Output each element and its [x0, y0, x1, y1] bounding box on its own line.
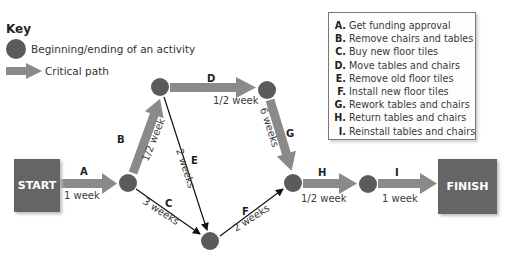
- arrow-b: [124, 95, 170, 176]
- node-4: [284, 174, 302, 192]
- activity-e-duration: 2 weeks: [174, 147, 197, 189]
- start-box: START: [14, 159, 60, 212]
- activity-b-letter: B: [117, 134, 125, 145]
- activity-e-letter: E: [191, 155, 198, 166]
- arrow-i: [378, 173, 437, 194]
- activity-h-duration: 1/2 week: [301, 193, 347, 204]
- node-6: [359, 175, 377, 193]
- activity-a-letter: A: [80, 166, 88, 177]
- node-5: [201, 232, 219, 250]
- network-diagram: A B C D E F G H I 1 week 1/2 week 3 week…: [0, 0, 515, 260]
- activity-d-duration: 1/2 week: [213, 95, 259, 106]
- activity-a-duration: 1 week: [64, 190, 100, 201]
- activity-i-letter: I: [395, 167, 399, 178]
- node-2: [151, 78, 169, 96]
- activity-g-letter: G: [286, 128, 294, 139]
- node-3: [258, 81, 276, 99]
- arrow-h: [303, 173, 357, 194]
- node-1: [119, 174, 137, 192]
- activity-d-letter: D: [207, 73, 215, 84]
- activity-h-letter: H: [318, 167, 326, 178]
- activity-f-duration: 2 weeks: [231, 202, 271, 234]
- activity-i-duration: 1 week: [382, 193, 418, 204]
- finish-box: FINISH: [438, 159, 497, 214]
- activity-c-duration: 3 weeks: [141, 195, 181, 227]
